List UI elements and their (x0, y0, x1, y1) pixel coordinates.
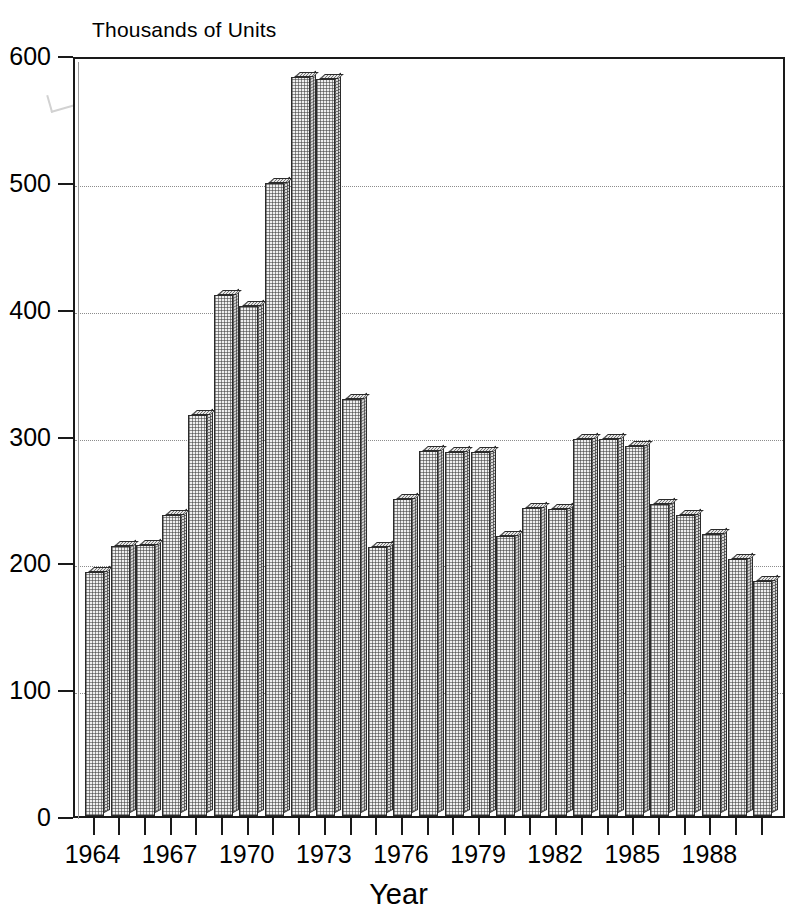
bar-series (75, 59, 783, 816)
bar-side-face (155, 538, 161, 813)
bar (445, 452, 464, 816)
y-tick-mark (58, 437, 73, 439)
bar-front-face (214, 295, 233, 816)
bar-side-face (721, 528, 727, 813)
bar (471, 452, 490, 816)
bar-front-face (599, 439, 618, 816)
x-tick-1968 (195, 818, 197, 835)
x-tick-1988 (709, 818, 711, 835)
bar-side-face (541, 502, 547, 813)
bar-front-face (342, 399, 361, 816)
y-tick-label: 600 (9, 42, 51, 71)
x-tick-1976 (401, 818, 403, 835)
bar-front-face (239, 306, 258, 816)
x-tick-1971 (272, 818, 274, 835)
bar-front-face (111, 546, 130, 816)
bar-front-face (548, 509, 567, 816)
y-tick-mark (58, 817, 73, 819)
bar-side-face (361, 393, 367, 813)
x-tick-1974 (350, 818, 352, 835)
x-tick-label: 1973 (296, 840, 352, 869)
x-tick-label: 1985 (604, 840, 660, 869)
bar-side-face (695, 509, 701, 813)
bar-front-face (419, 451, 438, 816)
x-tick-1972 (298, 818, 300, 835)
bar-side-face (644, 439, 650, 813)
bar-side-face (233, 289, 239, 813)
x-tick-1990 (761, 818, 763, 835)
x-tick-1973 (324, 818, 326, 835)
bar-front-face (471, 452, 490, 816)
bar-side-face (310, 70, 316, 813)
bar (291, 77, 310, 816)
bar (85, 572, 104, 816)
bar-front-face (393, 499, 412, 816)
bar-side-face (567, 503, 573, 813)
y-tick-mark (58, 56, 73, 58)
bar (753, 581, 772, 816)
x-tick-label: 1967 (142, 840, 198, 869)
bar (368, 547, 387, 816)
x-tick-1975 (375, 818, 377, 835)
y-tick-label: 100 (9, 676, 51, 705)
x-tick-1984 (607, 818, 609, 835)
bar-side-face (284, 177, 290, 813)
bar (111, 546, 130, 816)
bar-front-face (265, 183, 284, 816)
bar (265, 183, 284, 816)
bar (599, 439, 618, 816)
x-tick-label: 1970 (219, 840, 275, 869)
bar-front-face (650, 504, 669, 816)
bar (393, 499, 412, 816)
x-tick-1965 (118, 818, 120, 835)
bar-front-face (625, 446, 644, 816)
x-tick-1966 (144, 818, 146, 835)
bar-side-face (592, 433, 598, 813)
bar (496, 536, 515, 816)
bar (548, 509, 567, 816)
bar-front-face (728, 559, 747, 816)
bar-side-face (387, 541, 393, 813)
bar (316, 79, 335, 816)
bar-front-face (522, 508, 541, 816)
bar (162, 515, 181, 816)
bar-side-face (335, 73, 341, 813)
x-tick-1983 (581, 818, 583, 835)
y-tick-mark (58, 310, 73, 312)
bar (573, 439, 592, 816)
bar-front-face (445, 452, 464, 816)
y-axis-unit-caption: Thousands of Units (92, 18, 277, 42)
x-tick-label: 1976 (373, 840, 429, 869)
y-tick-label: 500 (9, 169, 51, 198)
bar (650, 504, 669, 816)
bar-side-face (515, 530, 521, 813)
x-tick-1980 (504, 818, 506, 835)
bar-front-face (85, 572, 104, 816)
bar-front-face (136, 545, 155, 816)
bar-side-face (258, 300, 264, 813)
bar-front-face (753, 581, 772, 816)
x-tick-1987 (684, 818, 686, 835)
x-tick-label: 1982 (527, 840, 583, 869)
x-tick-1969 (221, 818, 223, 835)
x-tick-label: 1979 (450, 840, 506, 869)
bar-chart-figure: Thousands of Units 0100200300400500600 1… (0, 0, 797, 923)
x-tick-1978 (452, 818, 454, 835)
x-tick-1964 (93, 818, 95, 835)
y-tick-label: 300 (9, 423, 51, 452)
y-tick-label: 400 (9, 296, 51, 325)
bar (342, 399, 361, 816)
bar (136, 545, 155, 816)
bar-front-face (702, 534, 721, 816)
bar-front-face (316, 79, 335, 816)
bar-side-face (412, 493, 418, 813)
y-tick-mark (58, 690, 73, 692)
bar-side-face (464, 446, 470, 813)
x-tick-1979 (478, 818, 480, 835)
bar-side-face (747, 552, 753, 813)
bar (214, 295, 233, 816)
bar-side-face (490, 446, 496, 813)
bar (728, 559, 747, 816)
bar-side-face (669, 498, 675, 813)
bar-front-face (496, 536, 515, 816)
